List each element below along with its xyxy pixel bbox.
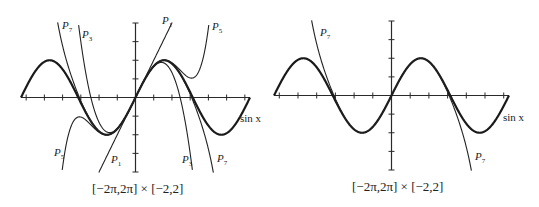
label-p5-top: P5: [211, 20, 223, 35]
left-caption: [−2π,2π] × [−2,2]: [92, 181, 183, 197]
label-p7-top: P7: [61, 19, 73, 34]
label-sin-right: sin x: [503, 111, 525, 123]
label-p7-top-right: P7: [319, 26, 331, 41]
label-p1-top: P1: [161, 14, 173, 29]
taylor-polynomial-charts: P7 P3 P1 P5 sin x P5 P1 P3 P7 P7 sin x P…: [0, 0, 539, 207]
label-p7-bottom-right: P7: [474, 150, 486, 165]
label-p3-top: P3: [81, 28, 93, 43]
right-chart: P7 sin x P7: [274, 20, 525, 170]
right-caption: [−2π,2π] × [−2,2]: [352, 179, 443, 195]
label-sin-left: sin x: [240, 112, 262, 124]
left-chart: P7 P3 P1 P5 sin x P5 P1 P3 P7: [21, 14, 262, 173]
label-p1-bottom: P1: [110, 153, 122, 168]
label-p5-bottom: P5: [53, 146, 65, 161]
label-p7-bottom: P7: [216, 152, 228, 167]
left-labels: P7 P3 P1 P5 sin x P5 P1 P3 P7: [53, 14, 262, 168]
